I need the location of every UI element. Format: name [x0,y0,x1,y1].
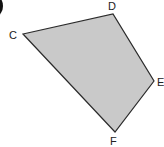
vertex-label-d: D [108,0,116,12]
vertex-label-c: C [9,29,17,41]
quadrilateral-diagram: C D E F [0,0,164,147]
quadrilateral-cdef [23,14,154,132]
vertex-label-e: E [157,76,164,88]
cropped-marker-shape [0,0,3,16]
vertex-label-f: F [110,135,117,147]
